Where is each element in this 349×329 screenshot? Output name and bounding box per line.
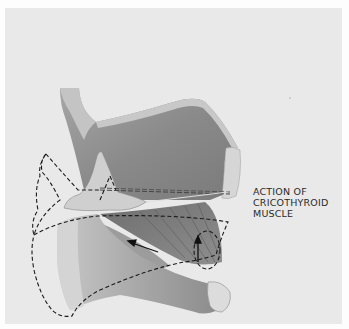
thyroid-cartilage (60, 88, 241, 200)
caption-line-2: CRICOTHYROID (253, 197, 329, 208)
caption-line-1: ACTION OF (253, 186, 329, 197)
speck (289, 97, 290, 98)
caption-line-3: MUSCLE (253, 208, 329, 219)
larynx-illustration (0, 0, 349, 329)
figure-caption: ACTION OF CRICOTHYROID MUSCLE (253, 186, 329, 219)
